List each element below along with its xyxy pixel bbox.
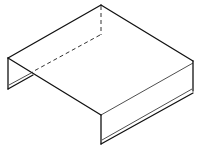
channel-cover-drawing <box>0 0 199 167</box>
